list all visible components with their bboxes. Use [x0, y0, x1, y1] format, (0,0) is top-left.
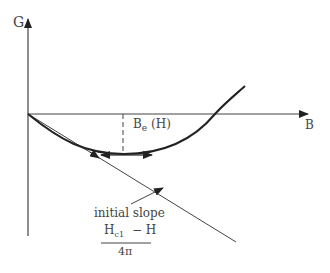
x-axis-label: B: [305, 118, 314, 132]
slope-title: initial slope: [94, 206, 165, 220]
curve-label: Be (H): [133, 117, 171, 133]
curve-label-sub: e: [142, 123, 147, 133]
curve-label-arg: (H): [151, 117, 171, 131]
y-axis-label: G: [13, 14, 24, 30]
slope-denominator: 4π: [118, 245, 132, 258]
slope-label-leader: [131, 188, 163, 204]
slope-num-sub: c1: [114, 230, 124, 239]
slope-num-h: H: [104, 223, 114, 237]
slope-numerator: Hc1 − H: [104, 223, 156, 239]
slope-num-op: − H: [132, 223, 156, 237]
curve-label-main: B: [133, 117, 142, 131]
slope-arrow-icon: [90, 152, 99, 158]
diagram-canvas: [0, 0, 330, 273]
